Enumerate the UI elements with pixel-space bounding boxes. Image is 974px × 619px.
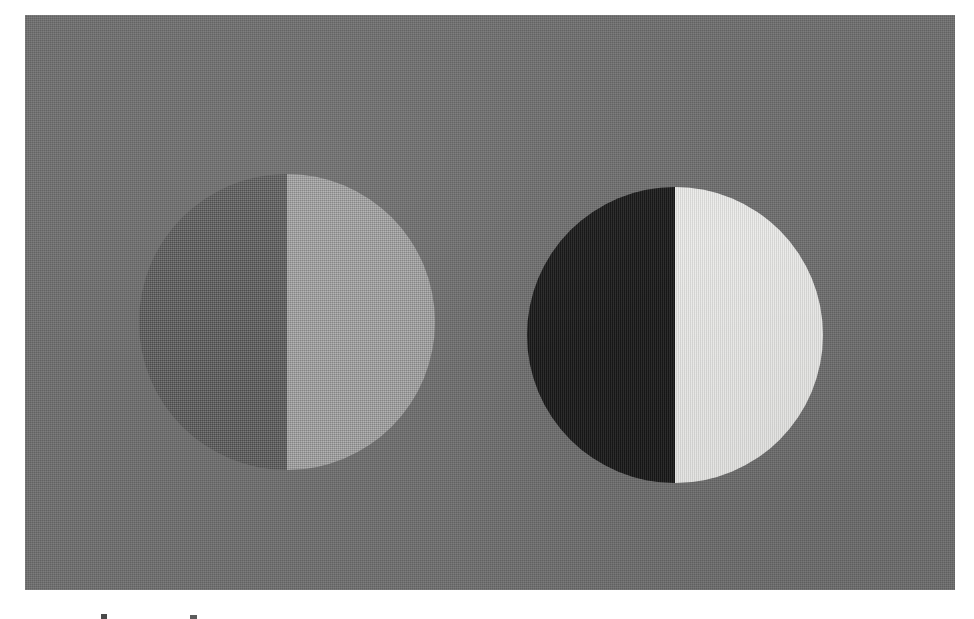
cropped-caption-strip	[0, 606, 974, 619]
low-contrast-disc-right-half	[287, 174, 435, 470]
high-contrast-disc-left-half	[527, 187, 675, 483]
figure-root: Simultaneous contrast demonstration: two…	[0, 0, 974, 619]
high-contrast-disc	[527, 187, 823, 483]
caption-glyph-tip	[101, 614, 107, 619]
low-contrast-disc	[139, 174, 435, 470]
high-contrast-disc-right-half	[675, 187, 823, 483]
caption-glyph-tip	[190, 615, 197, 619]
low-contrast-disc-left-half	[139, 174, 287, 470]
gray-field-panel	[25, 15, 955, 590]
